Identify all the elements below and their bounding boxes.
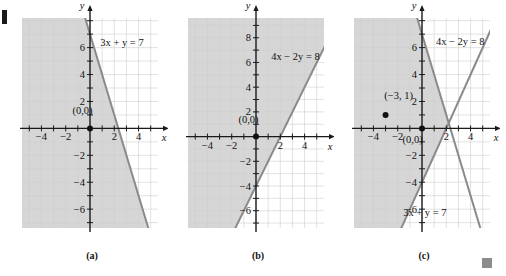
plot-point xyxy=(87,125,93,131)
panel-b-graph: −4−2248642−2−4−6xy4x − 2y = 8(0,0) xyxy=(182,0,334,250)
xtick-label: 2 xyxy=(278,140,283,151)
ytick-label: 6 xyxy=(246,57,251,68)
panel-a: −4−224642−2−4−6xy3x + y = 7(0,0) (a) xyxy=(16,0,168,250)
xtick-label: −4 xyxy=(36,131,48,142)
xtick-label: 4 xyxy=(468,131,474,142)
y-axis-label: y xyxy=(245,0,251,11)
point-label: (0,0) xyxy=(72,105,93,117)
panel-a-caption: (a) xyxy=(16,250,168,261)
point-label: (0,0) xyxy=(403,134,424,146)
equation-label: 4x − 2y = 8 xyxy=(436,36,485,47)
ytick-label: 4 xyxy=(80,69,86,80)
equation-label: 3x + y = 7 xyxy=(403,207,446,218)
plot-point xyxy=(383,112,389,118)
ytick-label: −4 xyxy=(74,177,86,188)
xtick-label: −4 xyxy=(368,131,380,142)
figure-corner-mark xyxy=(2,10,7,24)
x-axis-label: x xyxy=(493,132,499,143)
x-axis-label: x xyxy=(327,141,333,152)
y-axis-label: y xyxy=(79,0,85,11)
ytick-label: −2 xyxy=(74,150,85,161)
xtick-label: −2 xyxy=(60,131,71,142)
ytick-label: 4 xyxy=(412,69,418,80)
equation-label: 3x + y = 7 xyxy=(100,37,143,48)
ytick-label: 6 xyxy=(412,42,417,53)
ytick-label: −2 xyxy=(240,156,251,167)
xtick-label: 4 xyxy=(136,131,142,142)
panel-c-caption: (c) xyxy=(348,250,500,261)
xtick-label: 2 xyxy=(112,131,117,142)
panel-b-caption: (b) xyxy=(182,250,334,261)
point-label: (0,0) xyxy=(238,114,259,126)
panel-c-graph: −4−224642−2−4−6xy4x − 2y = 83x + y = 7(0… xyxy=(348,0,500,250)
point-label: (−3, 1) xyxy=(384,90,413,102)
ytick-label: −6 xyxy=(74,204,85,215)
panel-a-graph: −4−224642−2−4−6xy3x + y = 7(0,0) xyxy=(16,0,168,250)
ytick-label: −4 xyxy=(406,177,418,188)
xtick-label: 4 xyxy=(302,140,308,151)
equation-label: 4x − 2y = 8 xyxy=(271,51,320,62)
y-axis-label: y xyxy=(411,0,417,11)
plot-point xyxy=(253,134,259,140)
figure-three-graphs: −4−224642−2−4−6xy3x + y = 7(0,0) (a) −4−… xyxy=(0,0,506,276)
ytick-label: −2 xyxy=(406,150,417,161)
xtick-label: −4 xyxy=(202,140,214,151)
xtick-label: −2 xyxy=(226,140,237,151)
ytick-label: 6 xyxy=(80,42,85,53)
xtick-label: 2 xyxy=(444,131,449,142)
panel-b: −4−2248642−2−4−6xy4x − 2y = 8(0,0) (b) xyxy=(182,0,334,250)
ytick-label: −4 xyxy=(240,181,252,192)
x-axis-label: x xyxy=(161,132,167,143)
ytick-label: −6 xyxy=(240,205,251,216)
ytick-label: 4 xyxy=(246,82,252,93)
panel-c: −4−224642−2−4−6xy4x − 2y = 83x + y = 7(0… xyxy=(348,0,500,250)
ytick-label: 8 xyxy=(246,32,251,43)
plot-point xyxy=(419,125,425,131)
